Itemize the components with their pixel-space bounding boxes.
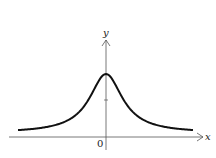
x-axis-label: x — [205, 132, 211, 142]
origin-label: 0 — [97, 139, 103, 149]
y-axis-label: y — [103, 28, 109, 38]
bell-curve — [18, 74, 193, 130]
plot-canvas — [0, 0, 216, 158]
